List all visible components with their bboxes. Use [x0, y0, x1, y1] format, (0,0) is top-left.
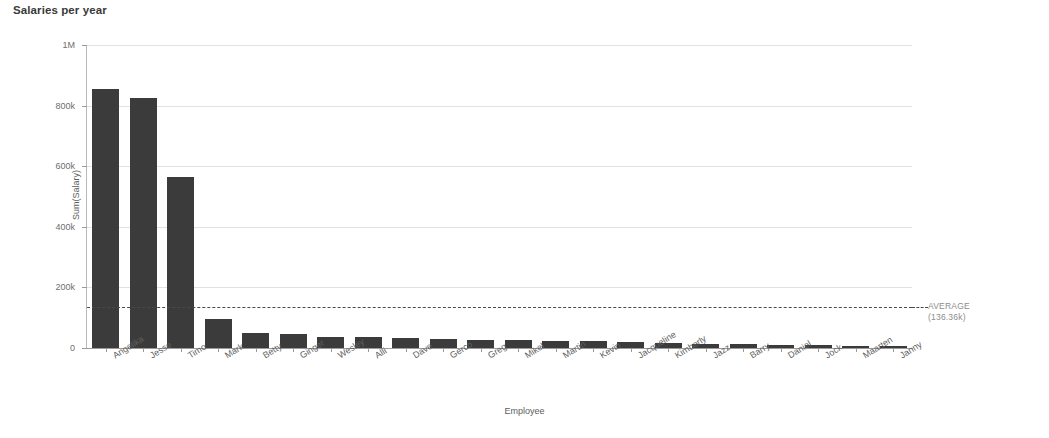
average-line-tail — [912, 307, 928, 308]
y-axis-tick — [82, 45, 87, 46]
y-axis-tick-label: 1M — [0, 40, 75, 50]
y-axis-tick-label: 0 — [0, 343, 75, 353]
x-axis-title: Employee — [0, 406, 1049, 416]
x-axis-tick — [668, 348, 669, 352]
gridline — [87, 227, 912, 228]
x-axis-tick — [406, 348, 407, 352]
average-reference-line — [87, 307, 912, 308]
y-axis-tick — [82, 166, 87, 167]
x-axis-tick — [218, 348, 219, 352]
y-axis-tick — [82, 348, 87, 349]
gridline — [87, 166, 912, 167]
gridline — [87, 287, 912, 288]
x-axis-tick — [818, 348, 819, 352]
y-axis-tick-label: 800k — [0, 101, 75, 111]
y-axis-tick — [82, 106, 87, 107]
chart-title: Salaries per year — [13, 4, 107, 16]
y-axis-title: Sum(Salary) — [71, 170, 81, 220]
y-axis-tick-label: 600k — [0, 161, 75, 171]
x-axis-tick — [143, 348, 144, 352]
bar[interactable] — [505, 340, 532, 348]
bar[interactable] — [542, 341, 569, 348]
y-axis-tick — [82, 227, 87, 228]
x-axis-tick — [706, 348, 707, 352]
x-axis-tick — [106, 348, 107, 352]
x-axis-tick — [293, 348, 294, 352]
bar[interactable] — [92, 89, 119, 348]
bar[interactable] — [205, 319, 232, 348]
x-axis-tick — [593, 348, 594, 352]
y-axis-tick-label: 200k — [0, 282, 75, 292]
x-axis-tick — [856, 348, 857, 352]
bar[interactable] — [167, 177, 194, 348]
x-axis-tick — [443, 348, 444, 352]
x-axis-tick — [893, 348, 894, 352]
y-axis-tick-label: 400k — [0, 222, 75, 232]
x-axis-tick — [481, 348, 482, 352]
gridline — [87, 45, 912, 46]
x-axis-tick — [256, 348, 257, 352]
x-axis-tick — [781, 348, 782, 352]
average-label-title: AVERAGE — [928, 301, 970, 312]
x-axis-tick — [631, 348, 632, 352]
x-axis-tick — [556, 348, 557, 352]
x-axis-tick — [368, 348, 369, 352]
y-axis-tick — [82, 287, 87, 288]
gridline — [87, 106, 912, 107]
x-axis-tick — [518, 348, 519, 352]
plot-area: Sum(Salary) — [87, 45, 912, 348]
bar[interactable] — [130, 98, 157, 348]
average-line-label: AVERAGE(136.36k) — [928, 301, 970, 323]
clipped-header-text: — — [690, 0, 940, 3]
bar[interactable] — [392, 338, 419, 348]
x-axis-tick — [181, 348, 182, 352]
bar[interactable] — [242, 333, 269, 348]
chart-canvas: — Salaries per year Sum(Salary) 0200k400… — [0, 0, 1049, 438]
x-axis-tick — [743, 348, 744, 352]
x-axis-tick — [331, 348, 332, 352]
bar[interactable] — [430, 339, 457, 348]
average-label-value: (136.36k) — [928, 312, 970, 323]
bar[interactable] — [280, 334, 307, 348]
